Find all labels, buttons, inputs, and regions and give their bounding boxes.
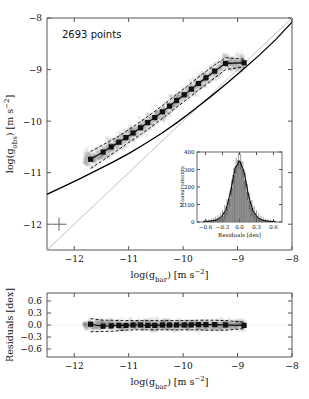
data-point bbox=[154, 103, 157, 106]
residual-panel: −12−11−10−9−80.60.30.0−0.3−0.6Residuals … bbox=[4, 288, 299, 391]
residual-point bbox=[228, 316, 232, 320]
residual-mean-marker bbox=[116, 323, 121, 328]
ylabel-pre: log(g bbox=[4, 149, 15, 174]
residual-mean-marker bbox=[123, 323, 128, 328]
inset-ylabel: Measurements bbox=[179, 166, 185, 208]
binned-mean-marker bbox=[100, 149, 105, 154]
xlabel-post: ) [m s bbox=[167, 269, 194, 280]
rxlabel-sup: −2 bbox=[194, 375, 204, 383]
binned-mean-marker bbox=[145, 120, 150, 125]
inset-histogram-panel: −0.6−0.30.00.30.60100200300400Residuals … bbox=[179, 149, 282, 238]
binned-mean-marker bbox=[241, 60, 246, 65]
data-point bbox=[137, 116, 140, 119]
residual-ytick-label: 0.0 bbox=[28, 320, 43, 330]
xlabel-tail: ] bbox=[205, 269, 209, 280]
main-xtick-label: −8 bbox=[285, 254, 299, 264]
points-count-annotation: 2693 points bbox=[62, 29, 121, 40]
binned-mean-marker bbox=[203, 75, 208, 80]
residual-mean-marker bbox=[160, 322, 165, 327]
data-point bbox=[152, 121, 155, 124]
residual-ylabel-text: Residuals [dex] bbox=[4, 288, 15, 362]
binned-mean-marker bbox=[116, 140, 121, 145]
inset-ytick-label: 100 bbox=[184, 202, 195, 208]
main-xtick-label: −12 bbox=[65, 254, 84, 264]
residual-xtick-label: −11 bbox=[119, 361, 138, 371]
binned-mean-marker bbox=[88, 157, 93, 162]
data-point bbox=[106, 137, 109, 140]
data-point bbox=[234, 52, 237, 55]
residual-xtick-label: −8 bbox=[285, 361, 299, 371]
rxlabel-post: ) [m s bbox=[167, 376, 194, 387]
ylabel-sup: −2 bbox=[3, 99, 11, 109]
binned-mean-marker bbox=[138, 125, 143, 130]
binned-mean-marker bbox=[167, 104, 172, 109]
binned-mean-marker bbox=[189, 87, 194, 92]
residual-mean-marker bbox=[203, 322, 208, 327]
rar-figure: −12−11−10−9−8−8−9−10−11−122693 pointslog… bbox=[0, 0, 309, 399]
residual-point bbox=[94, 327, 98, 331]
ylabel-post: ) [m s bbox=[4, 109, 15, 136]
data-point bbox=[225, 54, 228, 57]
residual-xtick-label: −9 bbox=[231, 361, 245, 371]
residual-mean-marker bbox=[196, 322, 201, 327]
histogram-bar bbox=[237, 161, 239, 222]
rxlabel-pre: log(g bbox=[130, 376, 155, 387]
inset-xlabel: Residuals [dex] bbox=[218, 232, 261, 238]
data-point bbox=[169, 114, 172, 117]
residual-mean-marker bbox=[174, 322, 179, 327]
residual-mean-marker bbox=[130, 322, 135, 327]
inset-xtick-label: −0.6 bbox=[199, 224, 213, 230]
data-point bbox=[102, 154, 105, 157]
residual-point bbox=[89, 318, 93, 322]
binned-mean-marker bbox=[109, 144, 114, 149]
histogram-bar bbox=[240, 162, 242, 222]
xlabel-sup: −2 bbox=[194, 268, 204, 276]
residual-point bbox=[129, 329, 133, 333]
residual-ytick-label: 0.6 bbox=[28, 296, 43, 306]
main-xtick-label: −9 bbox=[231, 254, 245, 264]
residual-mean-marker bbox=[241, 323, 246, 328]
data-point bbox=[189, 98, 192, 101]
data-point bbox=[115, 132, 118, 135]
main-xlabel: log(gbar) [m s−2] bbox=[130, 268, 208, 284]
data-point bbox=[232, 59, 235, 62]
data-point bbox=[109, 157, 112, 160]
residual-mean-marker bbox=[100, 324, 105, 329]
data-point bbox=[240, 50, 243, 53]
main-ylabel-text: log(gobs) [m s−2] bbox=[3, 95, 19, 173]
inset-xtick-label: 0.3 bbox=[252, 224, 261, 230]
data-point bbox=[83, 160, 86, 163]
rxlabel-sub: bar bbox=[155, 383, 168, 391]
data-point bbox=[143, 132, 146, 135]
data-point bbox=[189, 78, 192, 81]
inset-xtick-label: −0.3 bbox=[216, 224, 230, 230]
binned-mean-marker bbox=[152, 115, 157, 120]
residual-ytick-label: 0.3 bbox=[28, 308, 43, 318]
residual-mean-marker bbox=[138, 322, 143, 327]
binned-mean-marker bbox=[212, 69, 217, 74]
residual-mean-marker bbox=[145, 323, 150, 328]
histogram-bar bbox=[235, 166, 237, 222]
ylabel-tail: ] bbox=[4, 95, 15, 99]
main-ytick-label: −11 bbox=[23, 168, 42, 178]
data-point bbox=[147, 112, 150, 115]
residual-mean-marker bbox=[167, 322, 172, 327]
inset-ylabel-text: Measurements bbox=[179, 166, 185, 208]
data-point bbox=[161, 106, 164, 109]
main-ytick-label: −10 bbox=[23, 117, 42, 127]
data-point bbox=[133, 142, 136, 145]
main-ytick-label: −9 bbox=[29, 65, 43, 75]
data-point bbox=[146, 134, 149, 137]
data-point-cloud bbox=[83, 50, 246, 169]
residual-xtick-label: −12 bbox=[65, 361, 84, 371]
main-ytick-label: −8 bbox=[29, 13, 43, 23]
residual-point bbox=[229, 325, 233, 329]
binned-mean-marker bbox=[223, 61, 228, 66]
figure-container: −12−11−10−9−8−8−9−10−11−122693 pointslog… bbox=[0, 0, 309, 399]
residual-mean-marker bbox=[88, 322, 93, 327]
residual-data-layer bbox=[47, 316, 292, 334]
inset-ytick-label: 400 bbox=[184, 149, 195, 155]
binned-mean-marker bbox=[130, 130, 135, 135]
data-point bbox=[151, 107, 154, 110]
residual-ylabel: Residuals [dex] bbox=[4, 288, 15, 362]
